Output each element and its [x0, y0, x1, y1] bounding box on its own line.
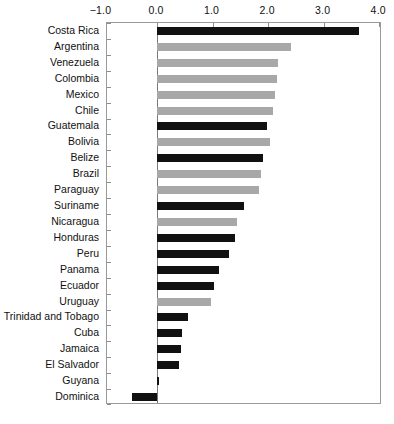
y-axis-category-label: El Salvador [45, 359, 99, 370]
bar [157, 138, 270, 146]
bar [157, 313, 188, 321]
y-axis-tick-mark [107, 214, 111, 215]
x-axis-tick-label: 4.0 [371, 4, 386, 16]
y-axis-category-label: Nicaragua [51, 215, 99, 226]
x-axis-tick-label: 0.0 [148, 4, 163, 16]
y-axis-tick-mark [107, 357, 111, 358]
horizontal-bar-chart: −1.00.01.02.03.04.0 Costa RicaArgentinaV… [0, 0, 394, 424]
plot-inner-area [107, 23, 380, 403]
y-axis-category-label: Trinidad and Tobago [4, 311, 99, 322]
bar [157, 266, 219, 274]
bar [157, 186, 259, 194]
y-axis-category-label: Honduras [53, 231, 99, 242]
bar [157, 282, 214, 290]
y-axis-tick-mark [107, 87, 111, 88]
bar [157, 170, 261, 178]
bar [157, 75, 277, 83]
x-axis-tick-label: −1.0 [90, 4, 112, 16]
bar [157, 122, 267, 130]
y-axis-tick-mark [107, 310, 111, 311]
x-axis-tick-label: 2.0 [260, 4, 275, 16]
y-axis-tick-mark [107, 230, 111, 231]
y-axis-tick-mark [107, 23, 111, 24]
y-axis-category-label: Costa Rica [48, 24, 99, 35]
y-axis-tick-mark [107, 278, 111, 279]
x-axis-tick-mark [379, 23, 380, 27]
y-axis-tick-mark [107, 150, 111, 151]
y-axis-tick-mark [107, 198, 111, 199]
y-axis-category-label: Venezuela [50, 56, 99, 67]
y-axis-category-label: Bolivia [68, 136, 99, 147]
x-axis-tick-label-row: −1.00.01.02.03.04.0 [0, 0, 394, 22]
y-axis-tick-mark [107, 389, 111, 390]
bar [157, 202, 244, 210]
bar [157, 234, 235, 242]
x-axis-tick-label: 3.0 [315, 4, 330, 16]
bar [157, 107, 273, 115]
y-axis-tick-mark [107, 404, 111, 405]
bar [157, 43, 291, 51]
y-axis-tick-mark [107, 71, 111, 72]
bar [157, 298, 211, 306]
y-axis-tick-mark [107, 294, 111, 295]
y-axis-category-label: Uruguay [59, 295, 99, 306]
x-axis-tick-label: 1.0 [204, 4, 219, 16]
y-axis-tick-mark [107, 55, 111, 56]
bar [157, 250, 229, 258]
y-axis-category-label: Belize [70, 152, 99, 163]
y-axis-tick-mark [107, 325, 111, 326]
y-axis-category-label: Colombia [55, 72, 99, 83]
bar [132, 393, 157, 401]
y-axis-tick-mark [107, 103, 111, 104]
bar [157, 377, 159, 385]
y-axis-category-label-column: Costa RicaArgentinaVenezuelaColombiaMexi… [0, 22, 103, 404]
y-axis-category-label: Argentina [54, 40, 99, 51]
y-axis-category-label: Chile [75, 104, 99, 115]
y-axis-category-label: Jamaica [60, 343, 99, 354]
bar [157, 345, 181, 353]
y-axis-tick-mark [107, 166, 111, 167]
bar [157, 361, 179, 369]
y-axis-tick-mark [107, 182, 111, 183]
y-axis-tick-mark [107, 134, 111, 135]
y-axis-category-label: Guyana [62, 375, 99, 386]
y-axis-tick-mark [107, 373, 111, 374]
bar [157, 329, 182, 337]
bar [157, 154, 263, 162]
bar [157, 59, 278, 67]
plot-area-frame [106, 22, 381, 404]
bar [157, 91, 275, 99]
y-axis-category-label: Brazil [73, 168, 99, 179]
y-axis-tick-mark [107, 246, 111, 247]
y-axis-tick-mark [107, 341, 111, 342]
bar [157, 27, 359, 35]
y-axis-tick-mark [107, 119, 111, 120]
y-axis-category-label: Guatemala [48, 120, 99, 131]
y-axis-category-label: Peru [77, 247, 99, 258]
y-axis-category-label: Paraguay [54, 184, 99, 195]
y-axis-category-label: Ecuador [60, 279, 99, 290]
y-axis-category-label: Mexico [66, 88, 99, 99]
y-axis-category-label: Suriname [54, 200, 99, 211]
y-axis-tick-mark [107, 39, 111, 40]
y-axis-category-label: Cuba [74, 327, 99, 338]
bar [157, 218, 237, 226]
y-axis-category-label: Panama [60, 263, 99, 274]
y-axis-tick-mark [107, 262, 111, 263]
y-axis-category-label: Dominica [55, 391, 99, 402]
